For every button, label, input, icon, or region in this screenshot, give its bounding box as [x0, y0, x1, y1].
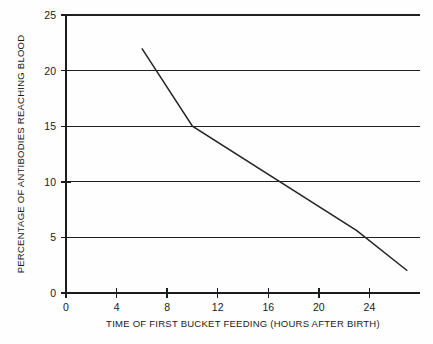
x-tick-labels-group: 04812162024 — [63, 301, 375, 313]
y-axis-title: PERCENTAGE OF ANTIBODIES REACHING BLOOD — [15, 35, 26, 274]
y-tick-label-20: 20 — [44, 65, 56, 77]
chart-container: 0510152025 04812162024 TIME OF FIRST BUC… — [0, 0, 433, 344]
x-tick-label-0: 0 — [63, 301, 69, 313]
y-tick-labels-group: 0510152025 — [44, 9, 56, 299]
x-tick-label-20: 20 — [313, 301, 325, 313]
x-tick-label-4: 4 — [114, 301, 120, 313]
x-axis-title: TIME OF FIRST BUCKET FEEDING (HOURS AFTE… — [106, 318, 380, 329]
x-tick-label-12: 12 — [212, 301, 224, 313]
line-chart: 0510152025 04812162024 TIME OF FIRST BUC… — [0, 0, 433, 344]
y-tick-label-0: 0 — [50, 287, 56, 299]
x-tick-label-16: 16 — [262, 301, 274, 313]
y-tick-label-15: 15 — [44, 120, 56, 132]
y-tick-label-10: 10 — [44, 176, 56, 188]
y-tick-label-25: 25 — [44, 9, 56, 21]
tick-marks-group — [61, 15, 369, 298]
y-tick-label-5: 5 — [50, 231, 56, 243]
x-tick-label-24: 24 — [364, 301, 376, 313]
gridlines-group — [66, 15, 420, 237]
x-tick-label-8: 8 — [164, 301, 170, 313]
